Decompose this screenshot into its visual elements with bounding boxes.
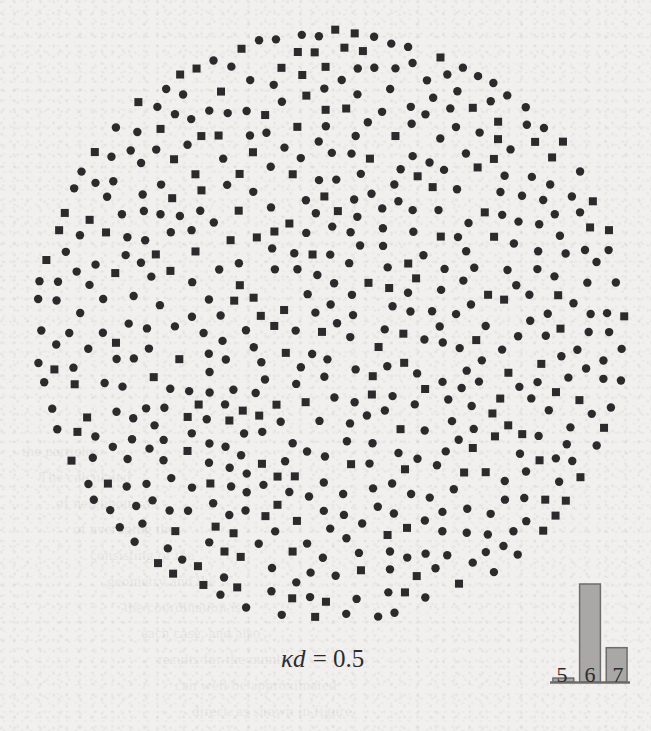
scatter-point-circle (312, 209, 320, 217)
scatter-point-square (322, 63, 330, 71)
scatter-point-square (488, 409, 496, 417)
scatter-point-circle (470, 263, 478, 271)
scatter-point-square (102, 228, 110, 236)
scatter-point-circle (470, 425, 478, 433)
scatter-point-circle (142, 404, 150, 412)
scatter-point-square (331, 26, 339, 34)
scatter-point-circle (199, 329, 207, 337)
scatter-point-circle (550, 272, 558, 280)
scatter-point-circle (209, 56, 217, 64)
scatter-point-circle (343, 437, 351, 445)
scatter-point-circle (216, 311, 224, 319)
scatter-point-square (293, 123, 301, 131)
scatter-point-square (620, 312, 628, 320)
scatter-point-circle (205, 368, 213, 376)
scatter-point-circle (490, 568, 498, 576)
scatter-point-circle (514, 217, 522, 225)
scatter-point-circle (37, 326, 45, 334)
scatter-point-circle (90, 496, 98, 504)
scatter-point-circle (118, 382, 126, 390)
scatter-point-circle (438, 527, 446, 535)
scatter-point-circle (351, 365, 359, 373)
scatter-point-circle (455, 344, 463, 352)
scatter-point-circle (281, 457, 289, 465)
scatter-point-square (537, 360, 545, 368)
scatter-point-circle (143, 324, 151, 332)
scatter-point-circle (237, 451, 245, 459)
scatter-point-circle (365, 459, 373, 467)
scatter-point-circle (48, 404, 56, 412)
scatter-point-circle (218, 337, 226, 345)
scatter-point-circle (227, 62, 235, 70)
scatter-point-circle (187, 226, 195, 234)
scatter-point-circle (145, 444, 153, 452)
scatter-point-circle (515, 383, 523, 391)
scatter-point-square (539, 527, 547, 535)
scatter-point-circle (99, 329, 107, 337)
scatter-point-circle (486, 510, 494, 518)
scatter-point-circle (381, 406, 389, 414)
scatter-point-circle (293, 265, 301, 273)
scatter-point-circle (406, 307, 414, 315)
scatter-point-circle (112, 123, 120, 131)
scatter-point-square (261, 512, 269, 520)
scatter-point-circle (130, 354, 138, 362)
scatter-point-circle (118, 210, 126, 218)
scatter-point-circle (592, 258, 600, 266)
scatter-point-square (366, 155, 374, 163)
scatter-point-circle (320, 84, 328, 92)
scatter-point-circle (246, 76, 254, 84)
scatter-point-circle (99, 295, 107, 303)
scatter-point-square (280, 306, 288, 314)
scatter-point-circle (413, 455, 421, 463)
scatter-point-circle (224, 109, 232, 117)
scatter-point-circle (573, 346, 581, 354)
scatter-point-square (401, 588, 409, 596)
scatter-point-circle (356, 241, 364, 249)
scatter-point-circle (454, 436, 462, 444)
scatter-point-circle (489, 79, 497, 87)
scatter-point-square (288, 594, 296, 602)
scatter-point-circle (350, 195, 358, 203)
scatter-point-circle (533, 378, 541, 386)
scatter-point-circle (403, 553, 411, 561)
scatter-point-square (469, 104, 477, 112)
scatter-point-circle (355, 549, 363, 557)
scatter-point-circle (581, 246, 589, 254)
scatter-point-circle (62, 248, 70, 256)
scatter-point-circle (52, 296, 60, 304)
scatter-point-circle (354, 64, 362, 72)
scatter-point-square (111, 269, 119, 277)
scatter-point-circle (450, 485, 458, 493)
scatter-point-square (195, 401, 203, 409)
scatter-point-circle (70, 184, 78, 192)
scatter-point-circle (159, 436, 167, 444)
scatter-point-circle (291, 326, 299, 334)
scatter-point-circle (246, 131, 254, 139)
scatter-point-square (199, 581, 207, 589)
scatter-point-circle (383, 362, 391, 370)
scatter-point-circle (271, 265, 279, 273)
scatter-point-circle (582, 364, 590, 372)
scatter-point-circle (297, 154, 305, 162)
scatter-point-square (357, 566, 365, 574)
scatter-point-circle (396, 165, 404, 173)
scatter-point-circle (280, 143, 288, 151)
scatter-point-circle (35, 277, 43, 285)
scatter-point-circle (261, 375, 269, 383)
scatter-point-circle (378, 108, 386, 116)
scatter-point-square (277, 64, 285, 72)
scatter-point-circle (546, 180, 554, 188)
scatter-point-square (359, 47, 367, 55)
scatter-point-circle (420, 335, 428, 343)
scatter-point-circle (509, 527, 517, 535)
scatter-point-circle (205, 538, 213, 546)
scatter-point-circle (328, 222, 336, 230)
scatter-point-square (552, 512, 560, 520)
scatter-point-circle (604, 246, 612, 254)
scatter-point-square (481, 208, 489, 216)
scatter-point-circle (123, 455, 131, 463)
scatter-point-circle (386, 547, 394, 555)
scatter-point-circle (176, 212, 184, 220)
scatter-point-circle (453, 185, 461, 193)
